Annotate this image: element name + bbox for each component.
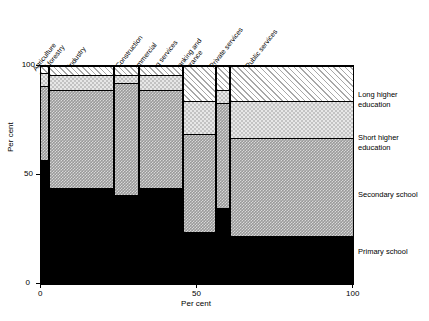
y-tick-50 [36, 174, 40, 175]
mosaic-segment-secondary[interactable] [50, 90, 114, 188]
mosaic-segment-long-higher[interactable] [140, 66, 182, 75]
mosaic-segment-short-higher[interactable] [41, 73, 48, 86]
mosaic-segment-long-higher[interactable] [184, 66, 215, 101]
mosaic-column-industry[interactable] [49, 66, 115, 284]
legend-primary-line1: Primary school [358, 247, 408, 257]
x-tick-100 [352, 284, 353, 288]
mosaic-segment-secondary[interactable] [184, 134, 215, 232]
mosaic-segment-long-higher[interactable] [115, 66, 138, 75]
mosaic-segment-short-higher[interactable] [217, 90, 229, 103]
legend-label-primary-school: Primary school [358, 247, 408, 257]
mosaic-segment-primary[interactable] [140, 188, 182, 284]
mosaic-segment-long-higher[interactable] [50, 66, 114, 75]
mosaic-segment-long-higher[interactable] [217, 66, 229, 90]
chart-root: Agricultureand forestryIndustryConstruct… [0, 0, 429, 321]
mosaic-column-construction[interactable] [114, 66, 139, 284]
mosaic-segment-secondary[interactable] [41, 86, 48, 160]
x-tick-label-100: 100 [346, 290, 359, 298]
column-header-public-services: Public services [244, 28, 279, 69]
mosaic-segment-primary[interactable] [184, 232, 215, 284]
mosaic-column-agriculture-and-forestry[interactable] [41, 66, 49, 284]
mosaic-segment-secondary[interactable] [140, 90, 182, 188]
mosaic-segment-primary[interactable] [217, 208, 229, 284]
legend-label-long-higher-education: Long higher education [358, 90, 398, 110]
mosaic-segment-secondary[interactable] [231, 138, 353, 236]
x-tick-50 [196, 284, 197, 288]
y-tick-100 [36, 65, 40, 66]
legend-secondary-line1: Secondary school [358, 190, 418, 200]
mosaic-segment-short-higher[interactable] [184, 101, 215, 134]
mosaic-segment-long-higher[interactable] [41, 66, 48, 73]
mosaic-segment-short-higher[interactable] [140, 75, 182, 90]
column-header-line: Public services [244, 28, 279, 69]
mosaic-segment-long-higher[interactable] [231, 66, 353, 101]
mosaic-segment-short-higher[interactable] [231, 101, 353, 138]
mosaic-segment-short-higher[interactable] [50, 75, 114, 90]
legend-short-line1: Short higher [358, 133, 399, 143]
mosaic-plot-area [40, 65, 354, 285]
legend-label-secondary-school: Secondary school [358, 190, 418, 200]
mosaic-segment-primary[interactable] [115, 195, 138, 284]
mosaic-column-public-services[interactable] [230, 66, 353, 284]
mosaic-segment-secondary[interactable] [217, 103, 229, 208]
mosaic-column-banking-and-insurance[interactable] [183, 66, 216, 284]
mosaic-segment-primary[interactable] [41, 160, 48, 284]
y-tick-label-0: 0 [26, 279, 30, 287]
mosaic-column-commercial-and-retailing-services[interactable] [139, 66, 183, 284]
column-header-line: Private services [208, 26, 244, 70]
mosaic-segment-secondary[interactable] [115, 83, 138, 194]
legend-label-short-higher-education: Short higher education [358, 133, 399, 153]
legend-long-line1: Long higher [358, 90, 398, 100]
legend-long-line2: education [358, 100, 398, 110]
mosaic-column-private-services[interactable] [216, 66, 230, 284]
mosaic-segment-primary[interactable] [50, 188, 114, 284]
column-header-private-services: Private services [208, 26, 244, 70]
x-tick-label-0: 0 [38, 290, 42, 298]
mosaic-segment-short-higher[interactable] [115, 75, 138, 84]
y-axis-title: Per cent [6, 122, 15, 152]
y-tick-label-100: 100 [22, 61, 35, 69]
x-axis-title: Per cent [0, 299, 392, 308]
mosaic-segment-primary[interactable] [231, 236, 353, 284]
x-tick-0 [40, 284, 41, 288]
x-tick-label-50: 50 [192, 290, 201, 298]
y-tick-label-50: 50 [24, 170, 33, 178]
legend-short-line2: education [358, 143, 399, 153]
